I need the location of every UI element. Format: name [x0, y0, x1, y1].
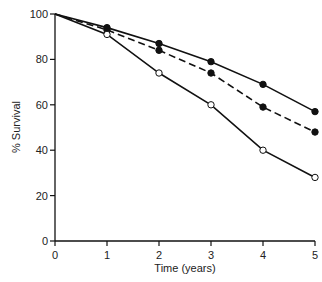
series-line-2 — [55, 14, 315, 177]
x-tick-label: 2 — [156, 249, 162, 261]
open-circle-marker — [260, 147, 266, 153]
y-tick-label: 60 — [36, 99, 48, 111]
plot-area — [55, 14, 318, 181]
filled-circle-marker — [208, 58, 214, 64]
filled-circle-marker — [208, 70, 214, 76]
open-circle-marker — [104, 31, 110, 37]
filled-circle-marker — [156, 40, 162, 46]
survival-chart: 020406080100012345 Time (years) % Surviv… — [0, 0, 322, 282]
x-axis-title: Time (years) — [154, 262, 215, 274]
x-tick-label: 5 — [312, 249, 318, 261]
open-circle-marker — [312, 174, 318, 180]
y-tick-label: 0 — [42, 235, 48, 247]
y-axis-title: % Survival — [10, 101, 22, 153]
filled-circle-marker — [260, 81, 266, 87]
y-tick-label: 100 — [30, 8, 48, 20]
open-circle-marker — [156, 70, 162, 76]
y-tick-label: 40 — [36, 144, 48, 156]
x-tick-label: 1 — [104, 249, 110, 261]
series-line-1 — [55, 14, 315, 132]
filled-circle-marker — [260, 104, 266, 110]
y-tick-label: 80 — [36, 53, 48, 65]
y-tick-label: 20 — [36, 190, 48, 202]
x-tick-label: 0 — [52, 249, 58, 261]
axes: 020406080100012345 — [30, 8, 318, 261]
open-circle-marker — [208, 102, 214, 108]
x-tick-label: 4 — [260, 249, 266, 261]
x-tick-label: 3 — [208, 249, 214, 261]
filled-circle-marker — [156, 47, 162, 53]
filled-circle-marker — [312, 129, 318, 135]
filled-circle-marker — [312, 108, 318, 114]
